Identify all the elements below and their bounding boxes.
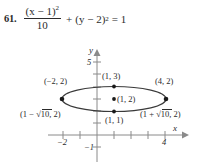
- fraction-denominator: 10: [35, 19, 50, 31]
- y-tick-label-neg1: −1: [84, 143, 94, 152]
- left-focus-close: , 2): [49, 109, 60, 119]
- right-focus-open: (1 +: [140, 109, 156, 119]
- radical-symbol-left: √10: [36, 109, 49, 119]
- x-tick-label-neg2: −2: [57, 138, 67, 147]
- second-term-text: (y − 2): [75, 13, 105, 25]
- left-focus-open: (1 −: [20, 109, 36, 119]
- ellipse-graph: (1, 3) (1, 2) (1, 1) (−2, 2) (4, 2) (1 −…: [0, 40, 200, 168]
- y-axis-label: y: [89, 46, 93, 55]
- label-right-vertex: (4, 2): [155, 77, 173, 86]
- label-top-covertex: (1, 3): [102, 72, 120, 81]
- y-axis-arrow: [94, 49, 101, 56]
- problem-number: 61.: [4, 13, 17, 24]
- label-left-vertex: (−2, 2): [44, 77, 67, 86]
- point-top-covertex: [112, 85, 116, 89]
- plus-operator: +: [66, 13, 72, 25]
- equals-one: = 1: [112, 13, 126, 25]
- numerator-text: (x − 1): [26, 5, 56, 17]
- right-focus-radicand: 10: [161, 109, 170, 119]
- fraction-numerator: (x − 1)2: [24, 6, 62, 18]
- right-focus-close: , 2): [169, 109, 180, 119]
- point-bottom-covertex: [112, 110, 116, 114]
- figure-root: 61. (x − 1)2 10 + (y − 2)2 = 1: [0, 0, 200, 168]
- radical-symbol-right: √10: [156, 109, 169, 119]
- x-axis-arrow: [182, 132, 189, 139]
- fraction-term: (x − 1)2 10: [24, 6, 62, 31]
- point-center: [112, 97, 116, 101]
- radical-bar-left: [42, 109, 52, 110]
- radical-bar-right: [162, 109, 172, 110]
- left-focus-radicand: 10: [41, 109, 50, 119]
- problem-equation: 61. (x − 1)2 10 + (y − 2)2 = 1: [4, 6, 200, 31]
- label-bottom-covertex: (1, 1): [105, 116, 123, 125]
- label-right-focus: (1 + √10, 2): [140, 110, 181, 119]
- y-tick-label-5: 5: [87, 58, 91, 67]
- numerator-exponent: 2: [56, 4, 60, 12]
- x-axis-label: x: [173, 124, 177, 133]
- label-left-focus: (1 − √10, 2): [20, 110, 61, 119]
- graph-canvas: [0, 40, 200, 168]
- point-left-vertex: [60, 97, 65, 102]
- point-right-vertex: [164, 97, 169, 102]
- label-center: (1, 2): [117, 95, 135, 104]
- x-tick-label-4: 4: [162, 138, 166, 147]
